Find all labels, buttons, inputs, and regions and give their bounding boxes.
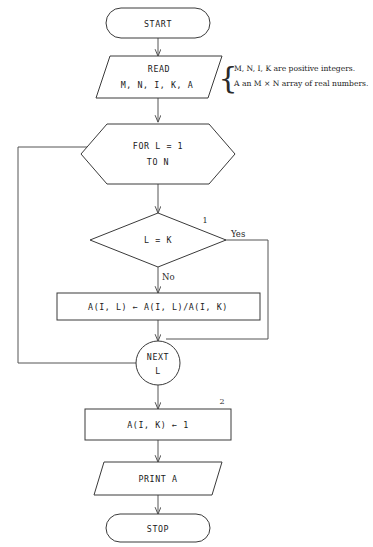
next-label-line1: NEXT <box>147 352 169 362</box>
for-label-line1: FOR L = 1 <box>133 141 183 151</box>
node-start[interactable]: START <box>106 8 210 38</box>
node-for-loop[interactable]: FOR L = 1 TO N <box>81 124 235 184</box>
assign-divide-label: A(I, L) ← A(I, L)/A(I, K) <box>88 302 228 312</box>
stop-label: STOP <box>147 524 169 534</box>
read-parallelogram-shape <box>96 56 222 98</box>
assign-one-label: A(I, K) ← 1 <box>127 420 189 430</box>
next-circle-shape <box>136 341 180 385</box>
for-label-line2: TO N <box>147 157 169 167</box>
node-read[interactable]: READ M, N, I, K, A <box>96 56 222 98</box>
read-label-line1: READ <box>148 64 170 74</box>
flowchart-canvas: START READ M, N, I, K, A { M, N, I, K ar… <box>0 0 373 547</box>
read-label-line2: M, N, I, K, A <box>121 80 194 90</box>
edge-label-yes: Yes <box>230 229 245 239</box>
for-hexagon-shape <box>81 124 235 184</box>
annotation-line2: A an M × N array of real numbers. <box>233 79 368 88</box>
edge-label-no: No <box>162 272 175 282</box>
node-next[interactable]: NEXT L <box>136 341 180 385</box>
marker-two-label: 2 <box>219 397 224 406</box>
node-assign-divide[interactable]: A(I, L) ← A(I, L)/A(I, K) <box>57 293 260 320</box>
node-assign-one[interactable]: A(I, K) ← 1 <box>85 409 231 440</box>
marker-one-label: 1 <box>202 216 207 225</box>
node-stop[interactable]: STOP <box>106 514 210 542</box>
next-label-line2: L <box>155 366 161 376</box>
start-label: START <box>144 19 172 29</box>
print-label: PRINT A <box>138 474 177 484</box>
read-annotation: { M, N, I, K are positive integers. A an… <box>218 60 368 95</box>
annotation-line1: M, N, I, K are positive integers. <box>234 64 355 73</box>
flowchart-svg: START READ M, N, I, K, A { M, N, I, K ar… <box>0 0 373 547</box>
decision-label: L = K <box>144 235 172 245</box>
node-print[interactable]: PRINT A <box>94 462 222 495</box>
